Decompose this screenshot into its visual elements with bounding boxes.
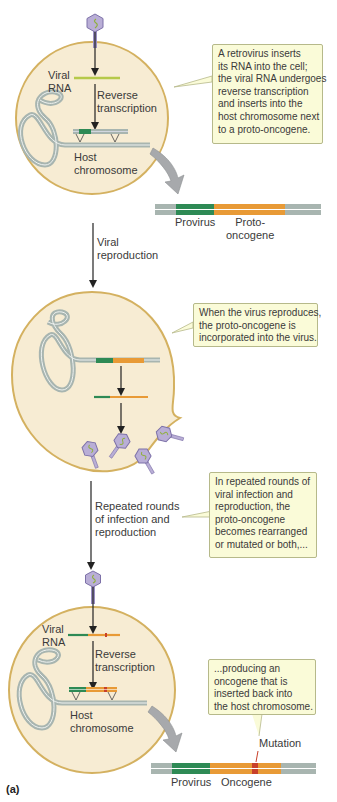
callout-pointer-3 xyxy=(182,511,212,517)
reverse-transcription-label-2: Reversetranscription xyxy=(95,648,155,674)
provirus-label: Provirus xyxy=(175,216,215,229)
proto-oncogene-segment xyxy=(113,358,144,363)
repeated-rounds-label: Repeated roundsof infection andreproduct… xyxy=(95,500,179,539)
mutation-leader xyxy=(256,751,258,762)
zoom-arrow xyxy=(150,148,184,194)
callout-pointer-4 xyxy=(252,714,262,736)
panel-label: (a) xyxy=(6,783,19,795)
callout-pointer xyxy=(174,76,212,87)
dna-strip-proto-oncogene xyxy=(155,204,321,215)
viral-rna-label: ViralRNA xyxy=(48,69,71,95)
callout-step2: When the virus reproduces,the proto-onco… xyxy=(193,303,318,347)
proto-oncogene-label: Proto-oncogene xyxy=(226,216,274,242)
host-chromosome-label-2: Hostchromosome xyxy=(70,709,134,735)
callout-step1: A retrovirus insertsits RNA into the cel… xyxy=(212,44,323,144)
callout-step3: ...producing anoncogene that isinserted … xyxy=(208,659,316,715)
provirus-label-2: Provirus xyxy=(171,776,211,789)
dna-strip-oncogene xyxy=(151,763,316,774)
host-chromosome-label: Hostchromosome xyxy=(74,151,138,177)
callout-pointer-2 xyxy=(172,322,193,333)
viral-rna-label-2: ViralRNA xyxy=(42,623,65,649)
provirus-segment xyxy=(96,358,113,363)
mutation-label: Mutation xyxy=(259,737,301,750)
callout-step2b: In repeated rounds ofviral infection and… xyxy=(209,472,317,558)
viral-reproduction-label: Viralreproduction xyxy=(97,236,158,262)
reverse-transcription-label: Reversetranscription xyxy=(97,89,157,115)
oncogene-label: Oncogene xyxy=(221,776,272,789)
